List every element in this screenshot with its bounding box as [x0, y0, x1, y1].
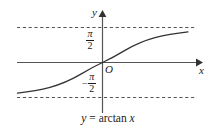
fraction-numerator: π [88, 72, 95, 82]
x-axis-label: x [199, 65, 204, 76]
tick-label-negative-pi-over-2-sign: − [82, 78, 88, 89]
caption-x: x [130, 112, 135, 124]
y-axis-label: y [92, 7, 97, 18]
figure-caption: y = arctan x [0, 112, 216, 124]
tick-label-negative-pi-over-2: − π 2 [82, 72, 96, 94]
origin-label: O [105, 64, 113, 75]
tick-label-pi-over-2: π 2 [86, 29, 94, 51]
y-axis-arrowhead [99, 10, 107, 17]
arctan-figure: y x O π 2 − π 2 y = arctan x [0, 0, 216, 134]
fraction-negative-pi-over-2: π 2 [88, 72, 96, 94]
caption-equals-arctan: = arctan [86, 112, 129, 124]
fraction-numerator: π [86, 29, 93, 39]
fraction-denominator: 2 [87, 41, 94, 51]
fraction-denominator: 2 [88, 84, 95, 94]
fraction-pi-over-2: π 2 [86, 29, 94, 51]
